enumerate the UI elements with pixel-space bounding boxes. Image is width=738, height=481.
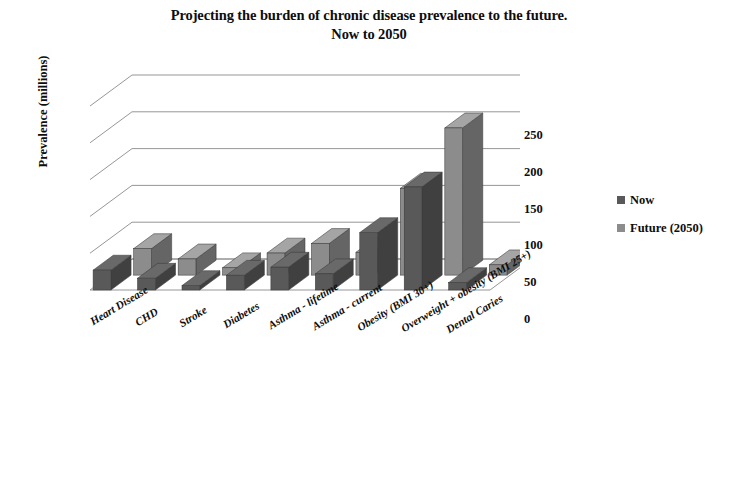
chart-legend: Now Future (2050) [617, 186, 703, 242]
legend-swatch-now-icon [617, 196, 625, 204]
chart-container: Projecting the burden of chronic disease… [0, 0, 738, 481]
x-tick-label-4: Diabetes [221, 299, 261, 330]
x-tick-label-3: Stroke [177, 303, 209, 329]
legend-swatch-future-icon [617, 224, 625, 232]
legend-item-future: Future (2050) [617, 214, 703, 242]
legend-label-future: Future (2050) [630, 221, 703, 236]
x-tick-label-2: CHD [132, 305, 159, 328]
legend-label-now: Now [630, 193, 654, 208]
legend-item-now: Now [617, 186, 703, 214]
